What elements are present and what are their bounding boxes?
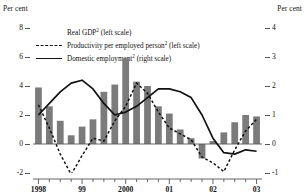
plot-area [33, 28, 262, 173]
x-label-2000: 2000 [118, 185, 133, 194]
bar-1998Q3 [57, 121, 64, 144]
right-axis-unit-label: Per cent [277, 4, 302, 13]
right-tick-3: 3 [263, 52, 276, 61]
chart-container: Per cent Per cent Real GDP2 (left scale)… [0, 0, 306, 196]
right-tick--1: -1 [263, 168, 278, 177]
x-label-03: 03 [253, 185, 261, 194]
bar-1998Q1 [35, 87, 42, 144]
bar-1998Q2 [46, 106, 53, 144]
right-tick-0: 0 [263, 139, 276, 148]
left-tick-6: 6 [0, 52, 32, 61]
bar-2000Q1 [122, 58, 129, 144]
left-tick-4: 4 [0, 81, 32, 90]
bar-2002Q3 [231, 122, 238, 144]
bar-2000Q4 [155, 106, 162, 144]
left-tick-2: 2 [0, 110, 32, 119]
left-tick--2: -2 [0, 168, 32, 177]
plot-svg [33, 28, 262, 173]
left-axis-unit-label: Per cent [3, 4, 28, 13]
x-axis [33, 178, 264, 186]
bar-2002Q2 [220, 132, 227, 144]
x-label-99: 99 [78, 185, 86, 194]
bar-2001Q2 [177, 130, 184, 145]
right-tick-1: 1 [263, 110, 276, 119]
x-label-01: 01 [166, 185, 174, 194]
bar-1998Q4 [68, 135, 75, 144]
x-label-1998: 1998 [31, 185, 46, 194]
bar-2002Q4 [242, 115, 249, 144]
bar-1999Q2 [90, 119, 97, 144]
bar-2000Q2 [133, 82, 140, 144]
left-tick-0: 0 [0, 139, 32, 148]
left-tick-8: 8 [0, 23, 32, 32]
right-tick-4: 4 [263, 23, 276, 32]
x-label-02: 02 [209, 185, 217, 194]
bar-1999Q1 [79, 127, 86, 144]
bar-2003Q1 [253, 116, 260, 144]
right-tick-2: 2 [263, 81, 276, 90]
